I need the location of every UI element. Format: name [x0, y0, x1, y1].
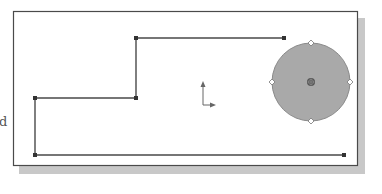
vertex-point[interactable] [33, 153, 37, 157]
sketch-drawing [0, 0, 382, 194]
vertex-point[interactable] [342, 153, 346, 157]
canvas-shadow [19, 166, 363, 174]
sketch-canvas-area: d [0, 0, 382, 194]
center-point-icon[interactable] [307, 78, 315, 86]
vertex-point[interactable] [134, 36, 138, 40]
vertex-point[interactable] [134, 96, 138, 100]
vertex-point[interactable] [282, 36, 286, 40]
vertex-point[interactable] [33, 96, 37, 100]
canvas-shadow-right [358, 18, 365, 174]
